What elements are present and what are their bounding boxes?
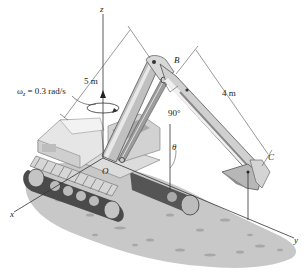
z-axis-label: z (99, 4, 104, 14)
angle-90-label: 90° (168, 108, 181, 118)
x-axis-label: x (9, 209, 14, 219)
length-4m-label: 4 m (222, 88, 236, 98)
length-5m-label: 5 m (84, 76, 98, 86)
excavator-diagram: z x y O B C 5 m 4 m 90° θ ωz = 0.3 rad/s (0, 0, 307, 279)
angle-theta-label: θ (172, 142, 177, 152)
point-C-label: C (268, 152, 275, 162)
point-B-label: B (174, 55, 180, 65)
omega-leader-line (72, 96, 96, 105)
stick-BC (160, 64, 262, 176)
angular-velocity-label: ωz = 0.3 rad/s (17, 86, 66, 97)
omega-value: = 0.3 rad/s (25, 86, 66, 96)
y-axis-label: y (293, 235, 298, 245)
origin-label: O (102, 166, 109, 176)
z-axis-arrow-icon (100, 90, 106, 98)
